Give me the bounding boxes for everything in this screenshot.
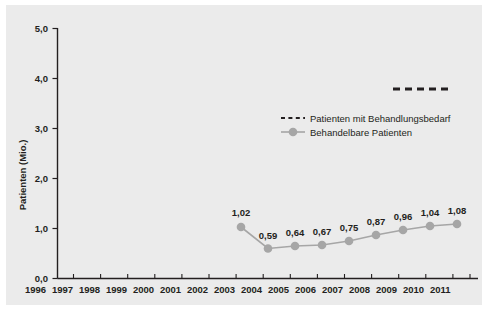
y-axis-label: Patienten (Mio.)	[17, 140, 28, 211]
data-point	[264, 244, 273, 253]
x-tick-label: 1996	[25, 284, 46, 295]
data-point	[237, 223, 246, 232]
data-point-label: 0,59	[259, 230, 278, 241]
x-tick-label: 2006	[295, 284, 316, 295]
legend-marker	[289, 128, 298, 137]
legend-item-behandelbare-patienten[interactable]: Behandelbare Patienten	[281, 127, 412, 138]
y-tick-label: 0,0	[35, 273, 48, 284]
data-point-label: 0,87	[367, 216, 386, 227]
line-chart: Patienten (Mio.) 0,0 1,0 2,0 3,0 4,0 5,0	[0, 0, 488, 314]
x-tick-label: 2008	[349, 284, 370, 295]
y-axis-ticks: 0,0 1,0 2,0 3,0 4,0 5,0	[35, 23, 58, 284]
x-tick-label: 2003	[214, 284, 235, 295]
x-tick-label: 2010	[403, 284, 424, 295]
data-point-label: 0,64	[286, 227, 305, 238]
data-point-label: 0,75	[340, 222, 359, 233]
x-tick-label: 2007	[322, 284, 343, 295]
data-point	[318, 241, 327, 250]
legend-label: Patienten mit Behandlungsbedarf	[310, 113, 451, 124]
data-point-label: 1,08	[448, 205, 467, 216]
data-point	[345, 237, 354, 246]
y-tick-label: 3,0	[35, 123, 48, 134]
data-point	[453, 220, 462, 229]
data-point	[372, 231, 381, 240]
data-point-label: 1,02	[232, 207, 251, 218]
x-tick-label: 2000	[133, 284, 154, 295]
data-point-label: 0,96	[394, 211, 413, 222]
y-tick-label: 4,0	[35, 73, 48, 84]
legend-label: Behandelbare Patienten	[310, 127, 412, 138]
legend-item-behandlungsbedarf[interactable]: Patienten mit Behandlungsbedarf	[281, 113, 451, 124]
y-tick-label: 1,0	[35, 223, 48, 234]
data-point	[291, 242, 300, 251]
x-tick-label: 2005	[268, 284, 290, 295]
y-tick-label: 5,0	[35, 23, 48, 34]
data-point	[426, 222, 435, 231]
x-tick-label: 2009	[376, 284, 397, 295]
x-tick-label: 1997	[52, 284, 73, 295]
chart-legend: Patienten mit Behandlungsbedarf Behandel…	[281, 113, 451, 138]
x-axis-tick-labels: 1996 1997 1998 1999 2000 2001 2002 2003 …	[25, 284, 451, 295]
data-point-label: 0,67	[313, 226, 332, 237]
x-tick-label: 1999	[106, 284, 127, 295]
y-tick-label: 2,0	[35, 173, 48, 184]
chart-figure: Patienten (Mio.) 0,0 1,0 2,0 3,0 4,0 5,0	[0, 0, 488, 314]
x-tick-label: 2001	[160, 284, 182, 295]
x-tick-label: 1998	[79, 284, 100, 295]
x-tick-label: 2002	[187, 284, 208, 295]
x-tick-label: 2011	[430, 284, 451, 295]
x-tick-label: 2004	[241, 284, 263, 295]
data-point-label: 1,04	[421, 207, 440, 218]
data-point	[399, 226, 408, 235]
